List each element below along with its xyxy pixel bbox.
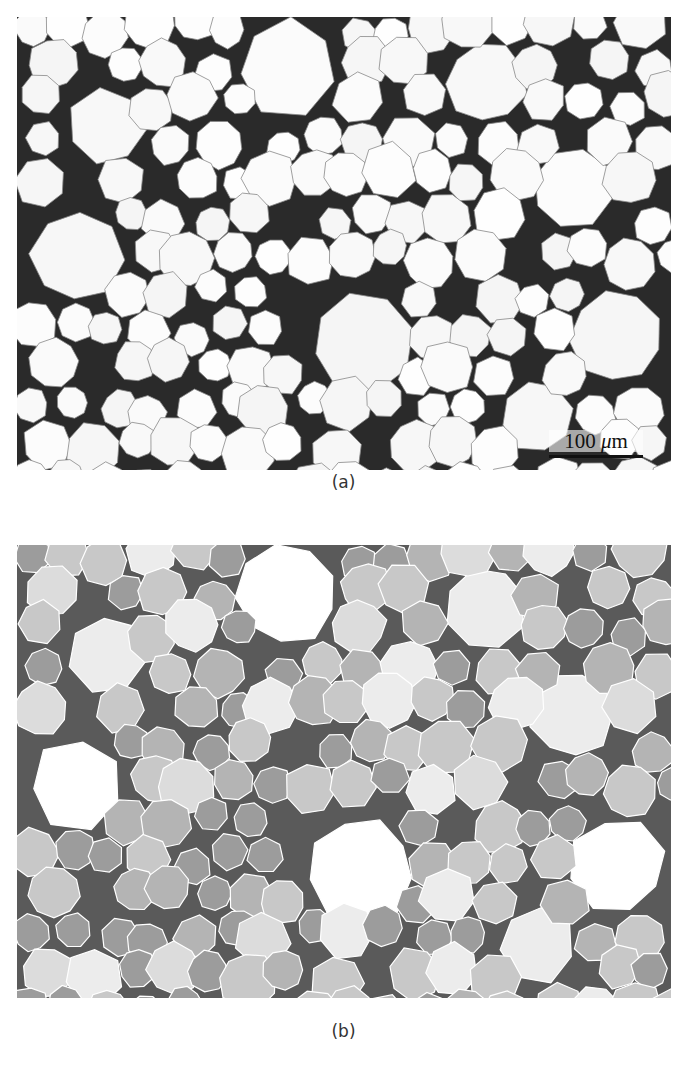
scale-bar-line bbox=[549, 455, 643, 458]
panel-a-caption: (a) bbox=[0, 472, 687, 492]
segmented-cell-map-image bbox=[17, 545, 671, 998]
scale-bar-value: 100 bbox=[564, 429, 596, 453]
micrograph-panel-a: 100 μm bbox=[17, 17, 671, 470]
segmented-panel-b bbox=[17, 545, 671, 998]
scale-bar: 100 μm bbox=[549, 430, 643, 458]
foam-micrograph-image bbox=[17, 17, 671, 470]
panel-b-caption: (b) bbox=[0, 1021, 687, 1041]
scale-bar-unit-suffix: m bbox=[611, 429, 627, 453]
scale-bar-unit-symbol: μ bbox=[601, 429, 612, 453]
scale-bar-label: 100 μm bbox=[549, 430, 643, 452]
